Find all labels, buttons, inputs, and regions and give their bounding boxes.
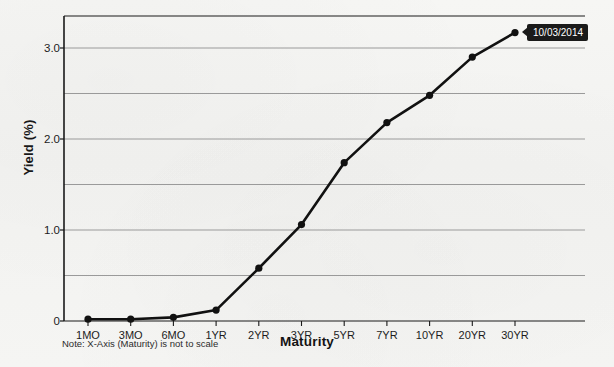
- yield-curve-chart: Yield (%) 01.02.03.0 1MO3MO6MO1YR2YR3YR5…: [0, 0, 614, 367]
- data-point-2YR: [255, 265, 262, 272]
- data-point-20YR: [469, 54, 476, 61]
- data-point-1YR: [213, 306, 220, 313]
- data-point-3MO: [127, 316, 134, 323]
- data-point-6MO: [170, 314, 177, 321]
- plot-area: [0, 0, 614, 367]
- data-point-3YR: [298, 221, 305, 228]
- chart-note: Note: X-Axis (Maturity) is not to scale: [62, 338, 218, 349]
- date-annotation-badge: 10/03/2014: [527, 24, 588, 41]
- data-point-30YR: [511, 29, 518, 36]
- yield-curve-line: [88, 33, 515, 320]
- data-point-5YR: [341, 159, 348, 166]
- data-point-10YR: [426, 92, 433, 99]
- data-point-1MO: [84, 316, 91, 323]
- x-axis-ticks: [88, 321, 515, 326]
- gridlines: [64, 48, 585, 321]
- data-point-7YR: [383, 119, 390, 126]
